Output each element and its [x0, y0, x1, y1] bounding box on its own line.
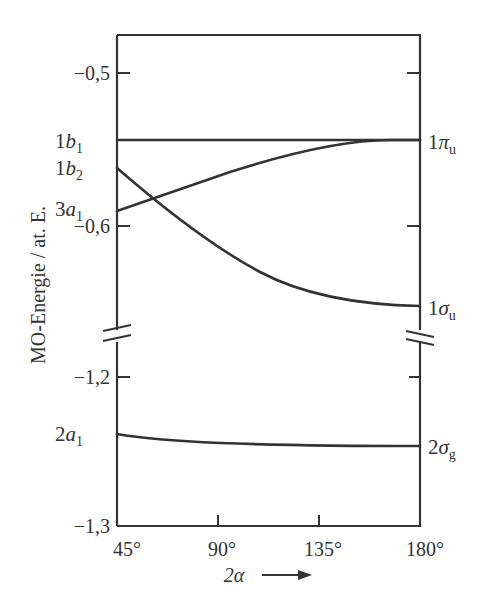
plot-frame: [117, 35, 421, 526]
label-1piu: 1πu: [428, 130, 456, 157]
axis-break-marks: [103, 325, 434, 345]
label-1b2: 1b2: [55, 156, 83, 183]
right-break-mark-1: [406, 331, 434, 337]
x-tick-label-180: 180°: [406, 538, 444, 560]
x-tick-label-45: 45°: [113, 538, 141, 560]
y-tick-label-m05: −0,5: [74, 62, 110, 84]
x-tick-label-135: 135°: [304, 538, 342, 560]
x-tick-label-90: 90°: [208, 538, 236, 560]
walsh-diagram: −0,5 −0,6 −1,2 −1,3 45° 90° 135° 180° 2α…: [0, 0, 487, 609]
curve-3a1-1piu: [117, 140, 420, 211]
label-1b1: 1b1: [55, 129, 83, 156]
label-2a1: 2a1: [55, 422, 83, 449]
label-3a1: 3a1: [55, 197, 83, 224]
y-tick-label-m12: −1,2: [74, 366, 110, 388]
orbital-curves: [117, 140, 420, 446]
x-axis-arrow-icon: [262, 570, 312, 580]
x-axis-title: 2α: [224, 564, 245, 586]
y-tick-label-m13: −1,3: [74, 515, 110, 537]
y-axis-title: MO-Energie / at. E.: [27, 206, 50, 364]
label-1sigmau: 1σu: [428, 296, 456, 323]
curve-2a1-2sigmag: [117, 434, 420, 446]
curve-1b2-1sigmau: [117, 168, 420, 306]
left-break-mark-2: [103, 335, 131, 341]
label-2sigmag: 2σg: [428, 435, 456, 462]
